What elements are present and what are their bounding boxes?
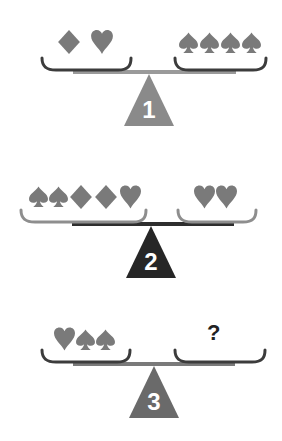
left-pan	[42, 350, 130, 362]
spade-icon	[200, 32, 219, 54]
scale-number: 1	[136, 96, 162, 124]
left-pan	[21, 210, 146, 222]
heart-icon	[216, 185, 237, 209]
left-pan	[42, 58, 131, 70]
spade-icon	[49, 186, 68, 208]
diamond-icon	[70, 185, 92, 209]
spade-icon	[179, 32, 198, 54]
balance-scale-2: 2	[0, 140, 282, 290]
balance-scale-1: 1	[0, 0, 282, 140]
heart-icon	[91, 30, 113, 54]
scale-number: 2	[138, 248, 164, 276]
right-pan	[175, 58, 266, 70]
scale-number: 3	[141, 388, 167, 416]
diamond-icon	[95, 185, 117, 209]
spade-icon	[76, 329, 95, 351]
spade-icon	[242, 32, 261, 54]
right-pan	[178, 210, 256, 222]
heart-icon	[54, 327, 75, 351]
heart-icon	[120, 185, 141, 209]
right-pan	[175, 350, 265, 362]
balance-scale-3: 3 ?	[0, 290, 282, 441]
spade-icon	[29, 186, 48, 208]
unknown-question-mark: ?	[207, 320, 220, 346]
heart-icon	[194, 185, 215, 209]
diamond-icon	[58, 30, 80, 54]
spade-icon	[221, 32, 240, 54]
scale-frame	[0, 290, 282, 441]
spade-icon	[96, 329, 115, 351]
